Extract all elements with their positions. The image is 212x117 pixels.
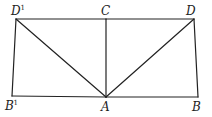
label-d1: D [10, 4, 21, 18]
segment-d-a [106, 19, 194, 97]
edges [12, 19, 198, 97]
geometry-diagram: D 1 C D B 1 A B [0, 0, 212, 117]
label-d: D [185, 4, 196, 18]
label-b: B [191, 100, 201, 114]
segment-b1-a [12, 96, 106, 97]
label-a: A [100, 100, 110, 114]
segment-d1-a [16, 19, 106, 97]
segment-d-b [194, 19, 198, 97]
label-b1: B [4, 99, 14, 113]
label-c: C [101, 4, 110, 18]
segment-d1-b1 [12, 19, 16, 96]
label-d1-superscript: 1 [21, 4, 25, 12]
label-b1-superscript: 1 [14, 99, 18, 107]
